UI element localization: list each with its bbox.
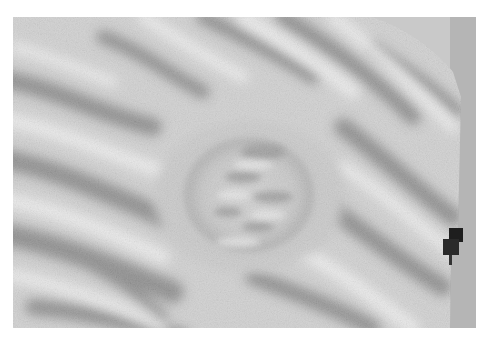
photograph [13, 17, 476, 328]
rock-slab-image [13, 17, 476, 328]
